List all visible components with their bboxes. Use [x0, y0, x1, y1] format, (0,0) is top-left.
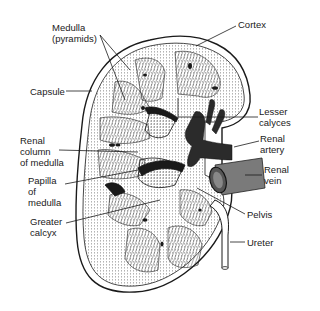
label-lesser-calyces: Lesser calyces [259, 106, 291, 128]
label-papilla: Papilla of medulla [28, 175, 61, 208]
label-cortex: Cortex [238, 19, 266, 30]
label-greater-calyx: Greater calcyx [30, 216, 62, 238]
label-renal-vein: Renal vein [264, 164, 289, 186]
label-ureter: Ureter [247, 237, 273, 248]
label-renal-artery: Renal artery [260, 133, 285, 155]
label-renal-column: Renal column of medulla [20, 135, 64, 168]
label-medulla: Medulla (pyramids) [52, 22, 97, 44]
label-capsule: Capsule [30, 86, 65, 97]
label-pelvis: Pelvis [247, 209, 272, 220]
